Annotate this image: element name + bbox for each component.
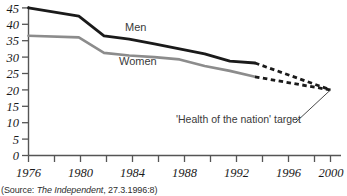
figure-container: 45 40 35 30 25 20 15 10 5 0 (0, 0, 347, 196)
y-tick-label: 10 (7, 116, 20, 130)
y-axis-ticks (22, 8, 29, 156)
x-tick-label: 1988 (172, 166, 198, 180)
x-tick-label: 2000 (319, 166, 345, 180)
y-tick-label: 35 (6, 34, 20, 48)
source-publication: The Independent (37, 185, 104, 195)
source-note: (Source: The Independent, 27.3.1996:8) (1, 185, 157, 195)
y-tick-label: 15 (7, 100, 20, 114)
axes (29, 6, 342, 156)
y-tick-label: 25 (7, 67, 20, 81)
x-tick-label: 1984 (120, 166, 145, 180)
x-tick-label: 1992 (224, 166, 249, 180)
y-tick-label: 40 (7, 18, 20, 32)
smoking-prevalence-line-chart: 45 40 35 30 25 20 15 10 5 0 (0, 0, 347, 196)
y-tick-label: 0 (13, 149, 20, 163)
y-tick-label: 20 (7, 84, 20, 98)
series-group (29, 8, 331, 90)
y-tick-label: 30 (6, 51, 20, 65)
x-tick-label: 1980 (68, 166, 94, 180)
series-label-men: Men (125, 21, 146, 33)
series-line-women-projection (255, 77, 331, 90)
y-tick-label: 5 (13, 133, 19, 147)
series-line-men-projection (255, 63, 331, 90)
x-tick-label: 1976 (16, 166, 42, 180)
y-axis-tick-labels: 45 40 35 30 25 20 15 10 5 0 (6, 2, 20, 164)
y-tick-label: 45 (7, 2, 20, 16)
target-leader-line (296, 90, 331, 122)
series-label-women: Women (119, 55, 157, 67)
source-prefix: (Source: (1, 185, 37, 195)
x-tick-label: 1996 (276, 166, 302, 180)
source-suffix: , 27.3.1996:8) (103, 185, 157, 195)
target-annotation-label: 'Health of the nation' target (176, 113, 301, 125)
x-axis-ticks (29, 156, 331, 163)
x-axis-tick-labels: 1976 1980 1984 1988 1992 1996 2000 (16, 166, 344, 180)
